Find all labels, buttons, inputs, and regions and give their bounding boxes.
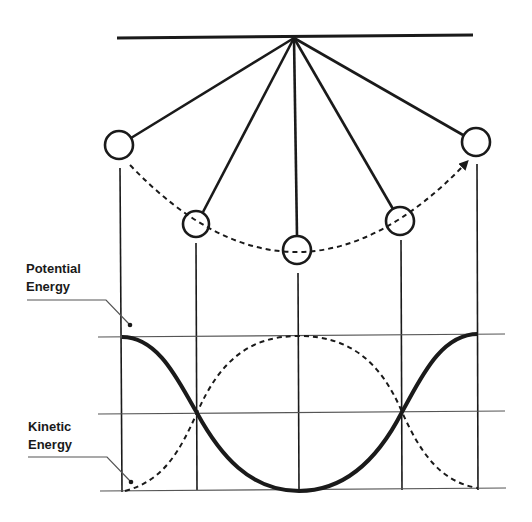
kinetic-energy-label-line1: Kinetic [28,418,72,436]
label-leaders [27,300,131,482]
potential-energy-label-line1: Potential [26,260,81,278]
bob-left-mid [183,211,209,237]
bob-right-extreme [462,128,490,156]
kinetic-leader-dot [129,480,134,485]
bob-bottom [283,236,311,264]
kinetic-energy-label-line2: Energy [28,436,72,454]
bob-left-extreme [105,131,133,159]
swing-path-arrow [130,163,466,252]
pendulum-strings [131,38,463,236]
potential-leader-dot [128,323,133,328]
potential-energy-label-line2: Energy [26,278,81,296]
kinetic-energy-label: Kinetic Energy [28,418,72,454]
potential-energy-label: Potential Energy [26,260,81,296]
vertical-guide-lines [120,164,478,492]
bob-right-mid [386,207,414,235]
